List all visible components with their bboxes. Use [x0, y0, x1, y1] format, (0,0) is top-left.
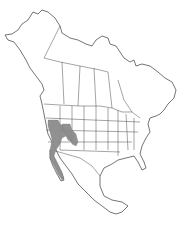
map-title: North America species range map — [0, 224, 1, 225]
range-map: North America species range map — [0, 0, 185, 225]
north-america-map — [0, 0, 185, 225]
north-america-landmass — [5, 10, 176, 214]
